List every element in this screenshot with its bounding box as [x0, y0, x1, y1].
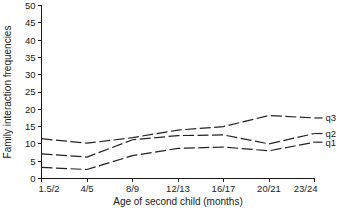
- y-axis-ticks: [38, 6, 42, 179]
- x-axis-group: 1.5/24/58/912/1316/1720/2123/24 Age of s…: [39, 179, 318, 208]
- x-tick-label: 1.5/2: [39, 183, 60, 194]
- line-chart: 05101520253035404550 Family interaction …: [0, 0, 349, 211]
- y-tick-label: 30: [25, 69, 36, 80]
- y-tick-label: 50: [25, 0, 36, 11]
- y-tick-label: 5: [30, 156, 35, 167]
- series-label-group: q3q2q1: [315, 112, 337, 147]
- series-line-q3: [42, 116, 315, 144]
- y-tick-label: 20: [25, 104, 36, 115]
- x-tick-label: 20/21: [257, 183, 281, 194]
- y-tick-label: 10: [25, 138, 36, 149]
- y-axis-title: Family interaction frequencies: [2, 26, 13, 159]
- y-tick-label: 0: [30, 173, 35, 184]
- y-tick-label: 45: [25, 17, 36, 28]
- series-line-q1: [42, 142, 315, 169]
- y-axis-group: 05101520253035404550 Family interaction …: [2, 0, 42, 184]
- x-tick-label: 23/24: [294, 183, 318, 194]
- chart-canvas: 05101520253035404550 Family interaction …: [0, 0, 349, 211]
- x-tick-label: 16/17: [212, 183, 236, 194]
- series-label-q1: q1: [326, 137, 337, 148]
- x-tick-label: 8/9: [126, 183, 139, 194]
- x-axis-ticks: [42, 179, 315, 183]
- x-tick-label: 12/13: [166, 183, 190, 194]
- y-tick-label: 40: [25, 35, 36, 46]
- x-tick-label: 4/5: [80, 183, 93, 194]
- y-axis-tick-labels: 05101520253035404550: [25, 0, 36, 184]
- series-line-q2: [42, 134, 315, 158]
- y-tick-label: 15: [25, 121, 36, 132]
- data-series-group: [42, 116, 315, 170]
- series-label-q3: q3: [326, 112, 337, 123]
- x-axis-tick-labels: 1.5/24/58/912/1316/1720/2123/24: [39, 183, 318, 194]
- y-tick-label: 25: [25, 86, 36, 97]
- x-axis-title: Age of second child (months): [113, 196, 243, 207]
- y-tick-label: 35: [25, 52, 36, 63]
